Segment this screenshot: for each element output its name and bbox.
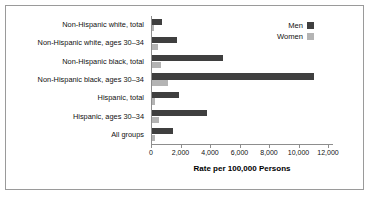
bar-women bbox=[152, 135, 155, 141]
category-axis-labels: Non-Hispanic white, totalNon-Hispanic wh… bbox=[8, 16, 148, 144]
bar-women bbox=[152, 44, 158, 50]
x-axis-title: Rate per 100,000 Persons bbox=[151, 164, 333, 173]
category-axis-line bbox=[151, 144, 333, 145]
legend-item: Men bbox=[234, 20, 314, 31]
bar-men bbox=[152, 92, 179, 98]
x-axis-tick bbox=[240, 145, 241, 148]
plot-wrapper: Non-Hispanic white, totalNon-Hispanic wh… bbox=[6, 6, 365, 191]
category-label: Hispanic, total bbox=[4, 93, 144, 102]
x-axis-tick-label: 0 bbox=[149, 149, 153, 156]
x-axis-tick bbox=[269, 145, 270, 148]
x-axis-tick-label: 10,000 bbox=[288, 149, 309, 156]
chart-frame: Non-Hispanic white, totalNon-Hispanic wh… bbox=[5, 5, 364, 190]
x-axis-tick bbox=[299, 145, 300, 148]
bar-women bbox=[152, 62, 161, 68]
category-label: Non-Hispanic black, ages 30–34 bbox=[4, 75, 144, 84]
bar-women bbox=[152, 98, 155, 104]
x-axis-tick bbox=[328, 145, 329, 148]
bar-group bbox=[152, 126, 334, 144]
category-label: All groups bbox=[4, 130, 144, 139]
legend-item: Women bbox=[234, 31, 314, 42]
legend-swatch bbox=[307, 22, 314, 29]
category-label: Non-Hispanic black, total bbox=[4, 57, 144, 66]
x-axis-tick-label: 12,000 bbox=[317, 149, 338, 156]
legend-label: Women bbox=[277, 32, 303, 41]
chart-legend: MenWomen bbox=[234, 20, 314, 42]
bar-group bbox=[152, 89, 334, 107]
bar-women bbox=[152, 80, 168, 86]
bar-group bbox=[152, 53, 334, 71]
bar-men bbox=[152, 37, 177, 43]
category-label: Non-Hispanic white, total bbox=[4, 20, 144, 29]
bar-group bbox=[152, 107, 334, 125]
bar-women bbox=[152, 117, 159, 123]
x-axis-tick bbox=[210, 145, 211, 148]
x-axis-tick bbox=[151, 145, 152, 148]
x-axis-tick-label: 8,000 bbox=[260, 149, 278, 156]
bar-men bbox=[152, 73, 314, 79]
bar-men bbox=[152, 110, 207, 116]
legend-swatch bbox=[307, 33, 314, 40]
category-label: Non-Hispanic white, ages 30–34 bbox=[4, 38, 144, 47]
bar-men bbox=[152, 55, 223, 61]
category-label: Hispanic, ages 30–34 bbox=[4, 112, 144, 121]
chart-figure: Non-Hispanic white, totalNon-Hispanic wh… bbox=[0, 0, 371, 201]
bar-men bbox=[152, 19, 162, 25]
x-axis-tick-label: 6,000 bbox=[231, 149, 249, 156]
bar-men bbox=[152, 128, 173, 134]
bar-women bbox=[152, 25, 154, 31]
x-axis-tick-label: 2,000 bbox=[172, 149, 190, 156]
bar-group bbox=[152, 71, 334, 89]
legend-label: Men bbox=[288, 21, 303, 30]
x-axis-tick bbox=[181, 145, 182, 148]
x-axis-tick-label: 4,000 bbox=[201, 149, 219, 156]
